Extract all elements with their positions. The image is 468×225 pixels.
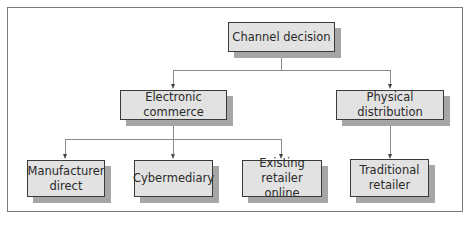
connector-to-existing-retailer-online xyxy=(281,139,282,155)
node-cybermediary: Cybermediary xyxy=(134,160,213,197)
node-traditional-retailer: Traditional retailer xyxy=(350,159,429,197)
arrow-down-icon xyxy=(388,84,392,89)
node-label: Traditional retailer xyxy=(350,159,429,197)
node-manufacturer-direct: Manufacturer direct xyxy=(27,160,105,197)
arrow-down-icon xyxy=(63,154,67,159)
node-existing-retailer-online: Existing retailer online xyxy=(242,160,322,197)
connector-to-electronic-commerce xyxy=(173,70,174,85)
connector-to-manufacturer-direct xyxy=(65,139,66,155)
node-label: Channel decision xyxy=(228,22,335,52)
node-label: Manufacturer direct xyxy=(27,160,105,197)
node-label: Electronic commerce xyxy=(120,90,227,120)
connector-to-physical-distribution xyxy=(390,70,391,85)
node-channel-decision: Channel decision xyxy=(228,22,335,52)
node-label: Cybermediary xyxy=(134,160,213,197)
connector-level1-bar xyxy=(173,70,391,71)
connector-to-cybermediary xyxy=(173,139,174,155)
node-physical-distribution: Physical distribution xyxy=(336,90,444,120)
arrow-down-icon xyxy=(171,84,175,89)
node-label: Physical distribution xyxy=(336,90,444,120)
node-electronic-commerce: Electronic commerce xyxy=(120,90,227,120)
node-label: Existing retailer online xyxy=(242,160,322,197)
